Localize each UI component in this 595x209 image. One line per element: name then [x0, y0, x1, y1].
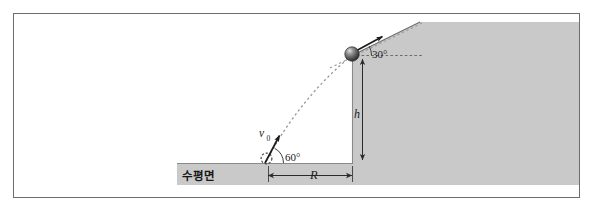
launch-angle-label: 60°	[285, 151, 300, 163]
height-label: h	[354, 107, 360, 121]
horizontal-plane-label: 수평면	[182, 169, 215, 183]
launch-speed-subscript-label: 0	[267, 134, 271, 143]
launch-speed-label-group: v 0	[259, 127, 271, 143]
landing-angle-label: 30°	[372, 48, 387, 60]
launch-angle-arc	[275, 148, 284, 163]
projectile-diagram: 수평면 v 0 60° 30° h R	[0, 0, 595, 209]
projectile-ball	[345, 47, 359, 61]
trajectory-path	[266, 56, 352, 163]
launch-speed-label: v	[259, 127, 265, 139]
range-label: R	[309, 168, 318, 182]
figure-root: 수평면 v 0 60° 30° h R	[0, 0, 595, 209]
incline-surface	[352, 22, 579, 185]
